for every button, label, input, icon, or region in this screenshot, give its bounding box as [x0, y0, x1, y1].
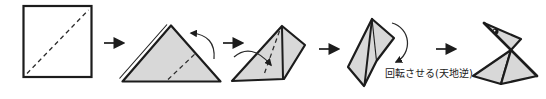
center-crease-line	[282, 27, 283, 79]
origami-instruction-strip: 回転させる(天地逆)	[0, 0, 546, 99]
rotate-curved-arrow-icon	[392, 23, 408, 62]
paper-shape	[232, 26, 305, 81]
bird-eye-icon	[493, 29, 499, 35]
rotate-caption: 回転させる(天地逆)	[385, 67, 473, 81]
paper-triangle	[123, 26, 221, 82]
origami-diagram	[0, 0, 546, 99]
step-1-square	[24, 6, 92, 77]
step-5-finished-bird	[473, 23, 537, 84]
bird-eye-highlight	[494, 30, 496, 32]
step-2-triangle	[120, 25, 221, 82]
step-3-folded-triangle	[232, 26, 305, 81]
